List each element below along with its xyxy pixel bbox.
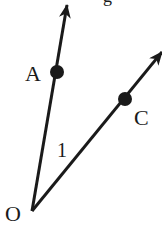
label-a: A [25, 61, 41, 86]
point-c [118, 92, 132, 106]
label-o: O [5, 201, 21, 226]
angle-label-1: 1 [57, 139, 67, 161]
label-c: C [134, 105, 149, 130]
angle-diagram: g A C O 1 [0, 0, 162, 228]
partial-text: g [103, 0, 112, 6]
point-a [50, 65, 64, 79]
ray-oa [32, 5, 67, 211]
